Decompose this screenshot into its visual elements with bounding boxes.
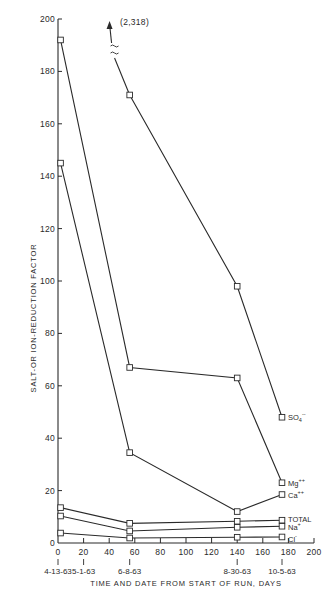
x-axis-title: TIME AND DATE FROM START OF RUN, DAYS xyxy=(90,579,281,588)
y-tick-label: 180 xyxy=(40,66,55,76)
axis-break-icon xyxy=(111,45,119,47)
x-tick-label: 120 xyxy=(204,547,219,557)
data-point-marker xyxy=(58,160,64,166)
data-point-marker xyxy=(279,534,285,540)
series-na xyxy=(58,513,285,534)
x-tick-label: 60 xyxy=(130,547,140,557)
series-label: Mg++ xyxy=(288,477,305,488)
series-label: Na+ xyxy=(288,521,301,532)
series-line xyxy=(61,40,282,483)
series-line xyxy=(115,58,130,95)
x-tick-label: 0 xyxy=(55,547,60,557)
y-tick-label: 160 xyxy=(40,119,55,129)
line-chart: 0204060801001201401601802000204060801001… xyxy=(0,0,334,592)
data-point-marker xyxy=(234,524,240,530)
data-point-marker xyxy=(279,492,285,498)
data-point-marker xyxy=(127,365,133,371)
date-tick-label: 8-30-63 xyxy=(223,567,251,576)
y-tick-label: 40 xyxy=(45,433,55,443)
data-point-marker xyxy=(279,523,285,529)
data-point-marker xyxy=(279,414,285,420)
y-tick-label: 0 xyxy=(50,538,55,548)
x-tick-label: 140 xyxy=(230,547,245,557)
series-line xyxy=(61,533,282,538)
date-tick-label: 5-1-63 xyxy=(72,567,96,576)
data-point-marker xyxy=(279,517,285,523)
offscale-annotation: (2,318) xyxy=(120,17,149,27)
series-label: Ca++ xyxy=(288,489,304,500)
x-tick-label: 160 xyxy=(255,547,270,557)
y-tick-label: 20 xyxy=(45,486,55,496)
x-tick-label: 40 xyxy=(104,547,114,557)
data-point-marker xyxy=(58,37,64,43)
data-point-marker xyxy=(234,375,240,381)
series-mg xyxy=(58,37,285,485)
x-tick-label: 200 xyxy=(306,547,321,557)
y-tick-label: 120 xyxy=(40,224,55,234)
y-tick-label: 80 xyxy=(45,328,55,338)
data-point-marker xyxy=(127,92,133,98)
data-point-marker xyxy=(58,505,64,511)
date-tick-label: 6-8-63 xyxy=(118,567,142,576)
y-axis-title: SALT-OR ION-REDUCTION FACTOR xyxy=(29,244,38,393)
data-point-marker xyxy=(127,450,133,456)
data-point-marker xyxy=(234,518,240,524)
y-tick-label: 60 xyxy=(45,381,55,391)
series-layer xyxy=(58,21,285,541)
data-point-marker xyxy=(279,480,285,486)
x-tick-label: 100 xyxy=(178,547,193,557)
x-tick-label: 80 xyxy=(155,547,165,557)
date-tick-label: 4-13-63 xyxy=(44,567,72,576)
series-line xyxy=(61,508,282,524)
series-line xyxy=(61,516,282,531)
y-tick-label: 140 xyxy=(40,171,55,181)
series-line xyxy=(61,163,282,511)
arrow-up-icon xyxy=(107,21,113,29)
series-so4 xyxy=(107,21,285,420)
data-point-marker xyxy=(127,535,133,541)
data-point-marker xyxy=(127,528,133,534)
series-cl xyxy=(58,530,285,541)
x-tick-label: 180 xyxy=(281,547,296,557)
data-point-marker xyxy=(58,513,64,519)
y-tick-label: 100 xyxy=(40,276,55,286)
data-point-marker xyxy=(127,521,133,527)
data-point-marker xyxy=(234,509,240,515)
series-line xyxy=(130,95,282,417)
data-point-marker xyxy=(234,283,240,289)
series-label: Cl- xyxy=(288,533,297,544)
data-point-marker xyxy=(234,534,240,540)
date-tick-label: 10-5-63 xyxy=(268,567,296,576)
y-tick-label: 200 xyxy=(40,14,55,24)
labels-layer: SO4--Mg++Ca++TOTALNa+Cl- xyxy=(288,411,311,544)
series-label: SO4-- xyxy=(288,411,306,423)
axis-break-icon xyxy=(111,52,119,54)
x-tick-label: 20 xyxy=(79,547,89,557)
series-ca xyxy=(58,160,285,514)
data-point-marker xyxy=(58,530,64,536)
